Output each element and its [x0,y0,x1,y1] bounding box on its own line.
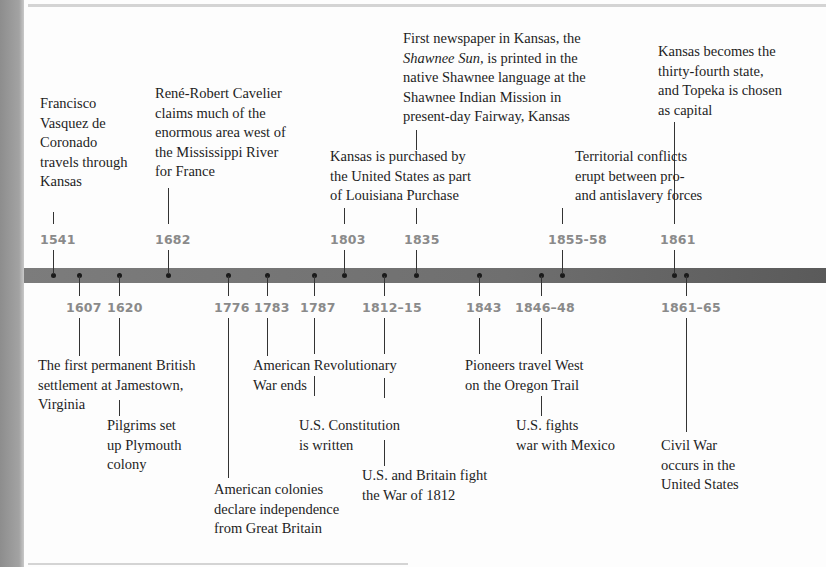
event-1843: Pioneers travel Weston the Oregon Trail [465,356,584,395]
connector-line [344,250,345,274]
event-1620: Pilgrims setup Plymouthcolony [107,416,182,475]
connector-line [79,276,80,296]
connector-line [686,276,687,296]
timeline-bar [24,268,826,283]
top-rule [28,4,826,7]
year-label: 1812–15 [362,300,422,315]
connector-line [168,188,169,224]
connector-line [541,396,542,416]
connector-line [119,276,120,296]
connector-line [541,318,542,354]
year-label: 1855-58 [548,232,607,247]
event-1783: American RevolutionaryWar ends [253,356,397,395]
event-1682: René-Robert Cavelierclaims much of theen… [155,84,286,182]
event-1861: Kansas becomes thethirty-fourth state,an… [658,42,782,120]
event-1776: American coloniesdeclare independencefro… [214,480,339,539]
year-label: 1776 [214,300,250,315]
connector-line [53,212,54,224]
connector-line [384,276,385,296]
year-label: 1843 [466,300,502,315]
event-1803: Kansas is purchased bythe United States … [330,147,471,206]
event-1812-15: U.S. and Britain fightthe War of 1812 [362,466,487,505]
event-1861-65: Civil Waroccurs in theUnited States [661,436,739,495]
connector-line [416,208,417,224]
event-1607: The first permanent Britishsettlement at… [38,356,195,415]
year-label: 1541 [40,232,76,247]
event-1541: FranciscoVasquez deCoronadotravels throu… [40,94,127,192]
connector-line [562,250,563,274]
connector-line [479,318,480,354]
connector-line [314,276,315,296]
connector-line [674,250,675,274]
connector-line [541,276,542,296]
year-label: 1861–65 [661,300,721,315]
connector-line [314,318,315,354]
year-label: 1861 [660,232,696,247]
year-label: 1682 [155,232,191,247]
year-label: 1803 [330,232,366,247]
connector-line [479,276,480,296]
connector-line [53,250,54,274]
connector-line [384,318,385,354]
connector-line [686,318,687,432]
year-label: 1783 [254,300,290,315]
event-1855-58: Territorial conflictserupt between pro-a… [575,147,702,206]
event-1787: U.S. Constitutionis written [299,416,400,455]
bottom-rule [28,563,408,565]
connector-line [267,318,268,356]
year-label: 1620 [107,300,143,315]
connector-line [228,318,229,478]
year-label: 1607 [66,300,102,315]
connector-line [344,208,345,224]
connector-line [416,250,417,274]
connector-line [228,276,229,296]
left-margin-strip [0,0,24,567]
event-1835: First newspaper in Kansas, the Shawnee S… [403,29,586,127]
event-1846-48: U.S. fightswar with Mexico [516,416,615,455]
year-label: 1835 [404,232,440,247]
connector-line [79,318,80,356]
connector-line [119,318,120,356]
year-label: 1846–48 [515,300,575,315]
connector-line [267,276,268,296]
connector-line [168,250,169,274]
year-label: 1787 [300,300,336,315]
connector-line [562,208,563,224]
